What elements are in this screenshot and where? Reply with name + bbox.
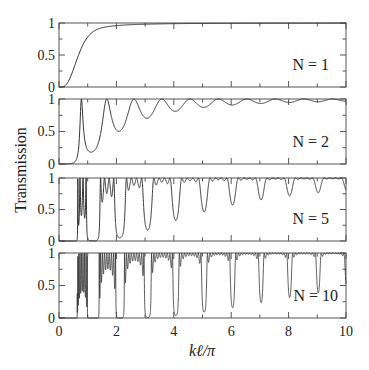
transmission-curve-N2 xyxy=(59,99,346,164)
y-tick-label: 1 xyxy=(48,171,55,186)
x-tick-label: 8 xyxy=(285,324,292,339)
panel-label: N = 1 xyxy=(292,56,329,73)
y-tick-label: 0 xyxy=(48,311,55,326)
plot-frame xyxy=(59,23,346,87)
transmission-chart: 00.51N = 100.51N = 200.51N = 500.51N = 1… xyxy=(0,0,369,370)
x-tick-label: 4 xyxy=(170,324,177,339)
x-tick-label: 2 xyxy=(113,324,120,339)
panel-10: 00.51N = 10 xyxy=(38,246,347,326)
y-tick-label: 0 xyxy=(48,157,55,172)
transmission-curve-N10 xyxy=(59,253,346,318)
panel-label: N = 10 xyxy=(293,287,338,304)
panel-label: N = 5 xyxy=(292,210,329,227)
panel-2: 00.51N = 2 xyxy=(38,92,347,172)
y-tick-label: 1 xyxy=(48,16,55,31)
x-tick-label: 10 xyxy=(339,324,353,339)
panel-1: 00.51N = 1 xyxy=(38,16,347,95)
y-tick-label: 1 xyxy=(48,246,55,261)
panel-label: N = 2 xyxy=(292,133,329,150)
y-tick-label: 0.5 xyxy=(38,48,56,63)
x-tick-label: 0 xyxy=(56,324,63,339)
x-tick-label: 6 xyxy=(228,324,235,339)
y-tick-label: 0.5 xyxy=(38,202,56,217)
plot-frame xyxy=(59,99,346,164)
x-axis-label: kℓ/π xyxy=(189,342,216,359)
y-tick-label: 0.5 xyxy=(38,124,56,139)
y-tick-label: 0.5 xyxy=(38,278,56,293)
y-axis-label: Transmission xyxy=(12,127,29,213)
x-tick-labels: 0 2 4 6 8 10 xyxy=(56,324,354,339)
y-tick-label: 1 xyxy=(48,92,55,107)
panel-5: 00.51N = 5 xyxy=(38,171,347,249)
